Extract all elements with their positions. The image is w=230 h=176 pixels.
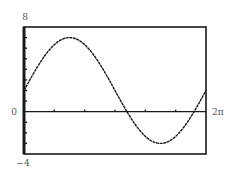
y-top-label: 8 [22,12,28,22]
y-zero-label: 0 [11,107,17,117]
sine-curve [24,38,206,144]
x-right-label: 2π [212,107,224,117]
chart: 8 −4 0 2π [0,0,230,176]
y-bottom-label: −4 [16,158,30,168]
